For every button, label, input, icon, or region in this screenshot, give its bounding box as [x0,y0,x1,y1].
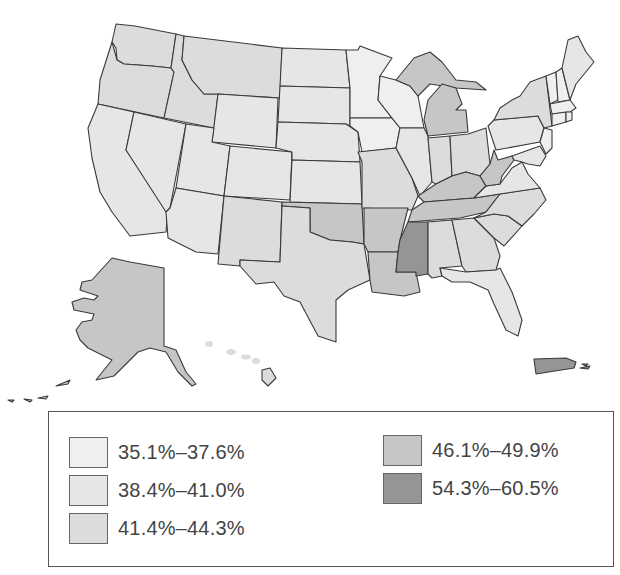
state-washington [112,24,176,68]
us-choropleth-map [0,0,620,405]
state-michigan-lower [424,84,468,136]
legend-item-5: 54.3%–60.5% [383,473,559,504]
legend-item-4: 46.1%–49.9% [383,435,559,466]
alaska-aleutians [8,380,70,402]
legend: 35.1%–37.6% 38.4%–41.0% 41.4%–44.3% 46.1… [48,411,614,567]
legend-item-1: 35.1%–37.6% [69,437,245,468]
state-alaska [72,258,196,386]
legend-item-2: 38.4%–41.0% [69,475,245,506]
state-new-mexico [218,196,282,266]
puerto-rico-islands [580,364,590,369]
state-indiana [428,136,452,184]
legend-label: 54.3%–60.5% [432,477,559,500]
legend-swatch [69,437,108,468]
state-rhode-island [566,112,572,122]
legend-swatch [69,475,108,506]
state-south-dakota [278,86,350,126]
legend-item-3: 41.4%–44.3% [69,513,245,544]
state-hawaii [205,341,276,386]
state-maryland-delaware [512,146,546,166]
state-pennsylvania [488,116,544,150]
state-colorado [224,146,292,200]
state-kansas [290,160,362,204]
legend-swatch [69,513,108,544]
legend-label: 35.1%–37.6% [118,441,245,464]
legend-swatch [383,435,422,466]
state-north-dakota [280,48,350,88]
territory-puerto-rico [534,358,576,374]
state-wyoming [212,94,278,148]
state-florida [440,268,522,336]
legend-label: 38.4%–41.0% [118,479,245,502]
legend-label: 46.1%–49.9% [432,439,559,462]
legend-label: 41.4%–44.3% [118,517,245,540]
state-connecticut [552,112,566,126]
state-arizona [166,188,224,254]
state-ohio [450,128,490,176]
legend-swatch [383,473,422,504]
